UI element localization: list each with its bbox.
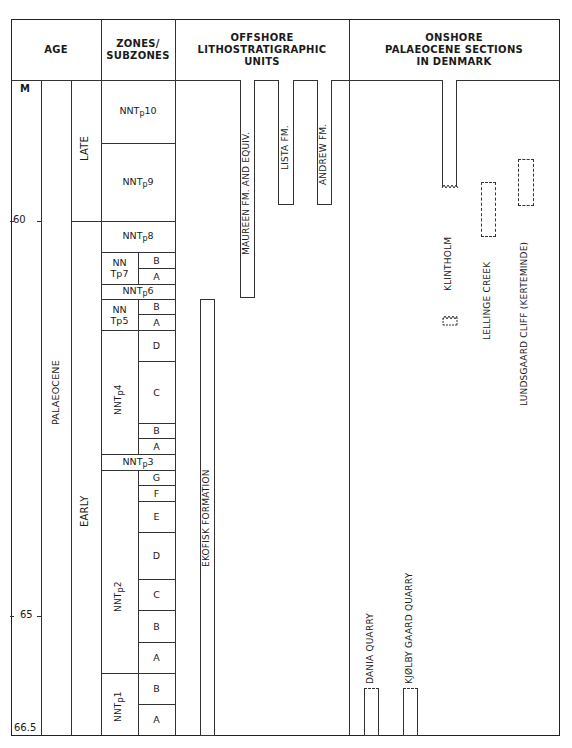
subzone-nntp4-b: B (138, 423, 175, 438)
header-zones-line2: SUBZONES (106, 50, 170, 62)
axis-tick-66-5: 66.5 (14, 722, 36, 733)
offshore-label-ekofisk: EKOFISK FORMATION (201, 469, 211, 567)
zone-nntp5-line1: NN (112, 304, 126, 315)
header-onshore: ONSHORE PALAEOCENE SECTIONS IN DENMARK (349, 19, 559, 80)
age-col-divider-1 (41, 80, 42, 735)
onshore-label-kjolby: KJØLBY GAARD QUARRY (404, 573, 414, 684)
axis-tick-60-mark-left (10, 221, 14, 222)
onshore-label-lellinge: LELLINGE CREEK (482, 262, 492, 340)
zone-nntp9-label: NNTp9 (122, 176, 153, 189)
header-age: AGE (11, 19, 101, 80)
header-zones-line1: ZONES/ (116, 38, 160, 50)
onshore-label-lundsgaard: LUNDSGAARD CLIFF (KERTEMINDE) (519, 242, 529, 406)
age-col-divider-2 (71, 80, 72, 735)
subzone-nntp1-a: A (138, 704, 175, 735)
unconformity-icon (441, 315, 459, 327)
zone-nntp10-label: NNTp10 (119, 105, 156, 118)
zone-nntp3: NNTp3 (101, 454, 175, 470)
subzone-nntp2-e: E (138, 501, 175, 532)
header-offshore-line1: OFFSHORE (230, 32, 293, 44)
unconformity-icon (441, 184, 459, 190)
subzone-nntp4-d: D (138, 330, 175, 361)
axis-tick-65: 65 (20, 609, 33, 620)
zone-nntp8: NNTp8 (101, 221, 175, 252)
subzone-nntp5-a: A (138, 314, 175, 330)
axis-tick-66-5-label: 66.5 (14, 722, 36, 733)
onshore-bar-klintholm (442, 80, 457, 187)
subzone-nntp2-f: F (138, 485, 175, 501)
col-divider-zones-offshore (175, 19, 176, 735)
zone-nntp4-label: NNTp4 (113, 384, 125, 415)
zone-nntp8-label: NNTp8 (122, 230, 153, 243)
zone-nntp7-line2: Tp7 (111, 268, 129, 279)
zone-nntp7: NN Tp7 (101, 252, 138, 284)
onshore-label-dania: DANIA QUARRY (365, 613, 375, 684)
subzone-nntp4-c: C (138, 361, 175, 423)
zone-nntp7-line1: NN (112, 257, 126, 268)
subzone-nntp1-b: B (138, 673, 175, 704)
zone-nntp1-label: NNTp1 (113, 691, 125, 722)
axis-tick-65-label: 65 (20, 609, 33, 620)
age-epoch-label: PALAEOCENE (50, 360, 61, 425)
age-early-label: EARLY (79, 496, 90, 527)
col-divider-offshore-onshore (349, 19, 350, 735)
zone-nntp6: NNTp6 (101, 284, 175, 299)
header-onshore-line1: ONSHORE (425, 32, 483, 44)
onshore-bar-lellinge (481, 182, 496, 237)
axis-tick-60-mark-right (37, 221, 41, 222)
subzone-nntp4-a: A (138, 438, 175, 454)
header-offshore: OFFSHORE LITHOSTRATIGRAPHIC UNITS (175, 19, 349, 80)
header-onshore-line2: PALAEOCENE SECTIONS (385, 44, 523, 56)
offshore-label-maureen: MAUREEN FM. AND EQUIV. (241, 132, 251, 255)
axis-tick-60-label: 60 (13, 214, 26, 225)
zone-nntp2-label: NNTp2 (113, 581, 125, 612)
subzone-nntp5-b: B (138, 299, 175, 314)
subzone-nntp2-g: G (138, 470, 175, 485)
header-offshore-line3: UNITS (244, 56, 280, 68)
offshore-label-lista: LISTA FM. (280, 125, 290, 170)
subzone-nntp2-a: A (138, 642, 175, 673)
header-onshore-line3: IN DENMARK (416, 56, 491, 68)
subzone-nntp7-a: A (138, 268, 175, 284)
axis-tick-60: 60 (13, 214, 26, 225)
onshore-bar-dania (364, 688, 379, 736)
zone-nntp3-label: NNTp3 (122, 456, 153, 469)
header-zones: ZONES/ SUBZONES (101, 19, 175, 80)
subzone-nntp2-b: B (138, 610, 175, 642)
zone-nntp6-label: NNTp6 (122, 285, 153, 298)
subzone-nntp7-b: B (138, 252, 175, 268)
zone-nntp5: NN Tp5 (101, 299, 138, 330)
header-age-label: AGE (44, 44, 68, 56)
onshore-bar-kjolby (403, 688, 418, 736)
age-late-early-boundary (71, 221, 101, 222)
subzone-nntp2-c: C (138, 579, 175, 610)
zone-nntp10: NNTp10 (101, 80, 175, 143)
age-late-label: LATE (79, 136, 90, 161)
subzone-nntp2-d: D (138, 532, 175, 579)
header-offshore-line2: LITHOSTRATIGRAPHIC (198, 44, 327, 56)
axis-unit-label: M (20, 83, 30, 94)
offshore-label-andrew: ANDREW FM. (318, 124, 328, 185)
onshore-label-klintholm: KLINTHOLM (443, 237, 453, 291)
axis-tick-65-mark-right (37, 616, 41, 617)
zone-nntp9: NNTp9 (101, 143, 175, 221)
zone-nntp5-line2: Tp5 (111, 315, 129, 326)
onshore-bar-lundsgaard (518, 159, 534, 206)
axis-tick-65-mark-left (10, 616, 14, 617)
